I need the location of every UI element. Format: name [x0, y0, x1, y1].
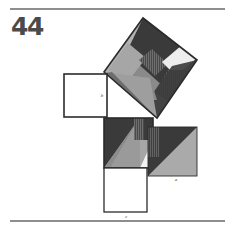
mid-hatch-strip — [134, 118, 144, 140]
pythagorean-dissection-figure: b a c — [0, 0, 235, 230]
square-c-bottom — [104, 168, 147, 212]
figure-page: 44 — [0, 0, 235, 230]
square-middle — [104, 118, 153, 168]
square-tilted-hypotenuse — [104, 18, 197, 118]
label-a-right: a — [175, 177, 178, 182]
label-c-bottom: c — [125, 214, 128, 219]
right-hatch-strip — [148, 127, 159, 157]
square-a-right — [148, 127, 197, 176]
square-c-outline — [104, 168, 147, 212]
